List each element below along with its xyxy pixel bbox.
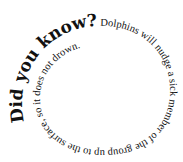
spiral-text: Did you know? Dolphins will nudge a sick…	[6, 10, 179, 159]
spiral-text-graphic: Did you know? Dolphins will nudge a sick…	[0, 0, 183, 162]
